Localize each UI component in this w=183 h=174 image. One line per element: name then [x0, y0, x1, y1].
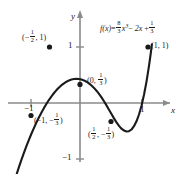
point-marker-left-point	[28, 113, 33, 118]
rp-close-paren: )	[166, 41, 169, 50]
cubic-function-graph: f(x)=83x3− 2x +13 y x −1 1 1 −1 (−12, 1)…	[0, 0, 183, 174]
point-label-left-point: (−1, −13)	[34, 112, 63, 126]
equation-plus: +	[144, 24, 149, 33]
point-marker-right-point	[145, 44, 150, 49]
function-equation: f(x)=83x3− 2x +13	[100, 20, 155, 34]
y-tick-label--1: −1	[62, 153, 72, 162]
point-marker-local-minimum	[108, 119, 113, 124]
lp-y-fraction: 13	[54, 112, 59, 126]
equation-equals: =	[111, 24, 116, 33]
lmax-close-paren: )	[43, 33, 46, 42]
lmax-sign: −	[25, 33, 30, 42]
yi-y-fraction: 13	[98, 72, 103, 86]
point-label-right-point: (1, 1)	[151, 42, 168, 50]
x-tick-label--1: −1	[24, 104, 34, 113]
lmin-close-paren: )	[112, 130, 115, 139]
cubic-coefficient-fraction: 83	[116, 20, 121, 34]
x-tick-label-1: 1	[140, 105, 145, 114]
constant-denominator: 3	[149, 28, 154, 35]
yi-y-denominator: 3	[98, 80, 103, 87]
lmin-x-denominator: 2	[91, 134, 96, 141]
y-axis-label: y	[71, 12, 75, 21]
lp-close-paren: )	[60, 116, 63, 125]
constant-fraction: 13	[149, 20, 154, 34]
lmin-sign: −	[101, 130, 106, 139]
cubic-denominator: 3	[116, 28, 121, 35]
y-axis-arrowhead	[77, 10, 83, 18]
lmin-x-fraction: 12	[91, 126, 96, 140]
equation-function-name: f(x)	[100, 24, 111, 33]
lp-sign: −	[49, 116, 54, 125]
point-label-local-minimum: (12, −13)	[88, 126, 114, 140]
lmin-y-denominator: 3	[106, 134, 111, 141]
point-label-local-maximum: (−12, 1)	[22, 29, 46, 43]
lp-x-value: −1	[37, 116, 46, 125]
x-axis-arrowhead	[163, 100, 170, 106]
lmin-y-fraction: 13	[106, 126, 111, 140]
y-tick-label-1: 1	[68, 41, 73, 50]
x-axis-label: x	[171, 106, 175, 115]
plot-canvas	[0, 0, 183, 174]
yi-separator: ,	[94, 76, 98, 85]
equation-linear-term: 2x	[135, 24, 143, 33]
yi-close-paren: )	[104, 76, 107, 85]
point-marker-local-maximum	[47, 44, 52, 49]
equation-minus: −	[128, 24, 133, 33]
cubic-curve	[17, 44, 152, 174]
lp-y-denominator: 3	[54, 120, 59, 127]
point-label-y-intercept: (0, 13)	[87, 72, 107, 86]
point-marker-y-intercept	[77, 82, 82, 87]
